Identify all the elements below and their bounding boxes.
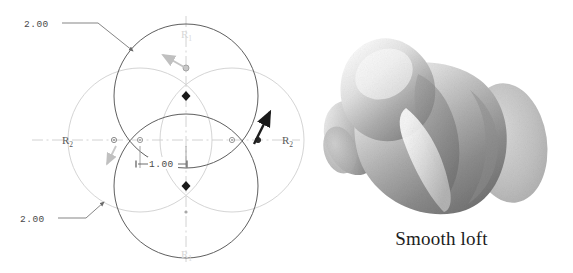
radius-label-left: R2 [62,134,73,149]
dimension-center: 1.00 [136,146,187,170]
dimension-upper-label: 2.00 [24,19,49,30]
node-bottom-icon [184,210,187,213]
dimension-upper: 2.00 [24,19,133,51]
diamond-down-icon [182,181,191,191]
figure-root: 2.00 2.00 1.00 R2 R2 [0,0,573,273]
radius-label-top: R1 [181,28,192,43]
dimension-lower: 2.00 [20,202,104,225]
arrow-upper-handle [163,55,184,67]
loft-solid [315,38,555,214]
constraint-arrows [107,55,270,164]
model-panel: Smooth loft [310,0,573,273]
sketch-panel: 2.00 2.00 1.00 R2 R2 [0,0,310,273]
arrow-right-handle [254,112,270,144]
loft-caption: Smooth loft [310,228,573,250]
dimension-upper-leader [62,23,133,51]
dimension-center-label: 1.00 [149,159,174,170]
arrow-lower-handle [107,146,116,164]
dimension-lower-leader [58,202,104,218]
radius-label-bottom: R1 [181,248,192,263]
diamond-up-icon [182,91,191,101]
dimension-lower-label: 2.00 [20,214,45,225]
sketch-canvas: 2.00 2.00 1.00 R2 R2 [0,0,310,273]
radius-label-right: R2 [282,134,293,149]
